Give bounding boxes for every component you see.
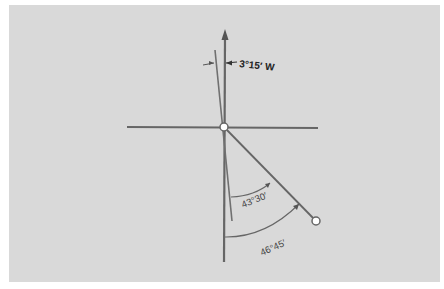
end-point bbox=[312, 217, 320, 225]
true-angle-label: 46°45′ bbox=[258, 237, 287, 258]
bearing-diagram: 3°15′ W 43°30′ 46°45′ bbox=[0, 0, 444, 289]
declination-indicator bbox=[203, 61, 237, 66]
north-arrow-icon bbox=[222, 29, 229, 40]
arrow-left-icon bbox=[226, 61, 232, 66]
bearing-line bbox=[224, 127, 316, 221]
center-point bbox=[220, 123, 228, 131]
declination-label: 3°15′ W bbox=[239, 58, 276, 73]
arc-arrow-icon bbox=[265, 183, 270, 188]
arrow-right-icon bbox=[209, 61, 214, 65]
true-angle-arc bbox=[224, 204, 299, 237]
